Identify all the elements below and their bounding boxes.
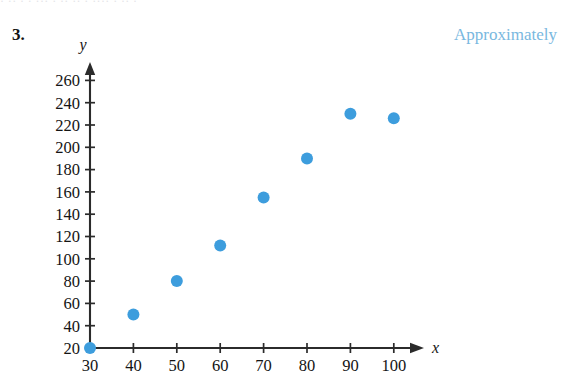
y-tick-label: 180 xyxy=(55,160,80,179)
y-tick-label: 100 xyxy=(55,250,80,269)
scatter-plot-svg: 20406080100120140160180200220240260 3040… xyxy=(0,0,588,381)
data-point: (30, 20) xyxy=(84,342,96,354)
x-tick-label: 60 xyxy=(212,356,229,375)
y-tick-label: 40 xyxy=(64,317,81,336)
y-tick-label: 140 xyxy=(55,205,80,224)
y-tick-label: 200 xyxy=(55,138,80,157)
y-tick-label: 260 xyxy=(55,71,80,90)
data-point: (100, 226) xyxy=(388,112,400,124)
y-axis-arrowhead xyxy=(85,62,95,75)
scatter-plot: 20406080100120140160180200220240260 3040… xyxy=(0,0,588,381)
x-axis-name-label: x xyxy=(431,339,439,356)
data-point: (90, 230) xyxy=(344,108,356,120)
y-axis-name-label: y xyxy=(77,36,87,54)
y-tick-label: 220 xyxy=(55,116,80,135)
data-point: (70, 155) xyxy=(258,191,270,203)
x-tick-label: 100 xyxy=(381,356,406,375)
data-point: (60, 112) xyxy=(214,239,226,251)
x-tick-label: 40 xyxy=(125,356,142,375)
data-point: (40, 50) xyxy=(127,309,139,321)
exercise-figure-page: · ·· · · ··· · ·· ·· · ···· · ·· · 3. Ap… xyxy=(0,0,588,381)
y-tick-label: 20 xyxy=(64,339,81,358)
y-tick-label: 160 xyxy=(55,183,80,202)
x-tick-label: 50 xyxy=(169,356,186,375)
x-axis-arrowhead xyxy=(410,343,424,353)
data-points: (30, 20)(40, 50)(50, 80)(60, 112)(70, 15… xyxy=(84,108,400,354)
data-point: (80, 190) xyxy=(301,152,313,164)
x-tick-label: 90 xyxy=(342,356,359,375)
x-tick-label: 70 xyxy=(255,356,272,375)
x-tick-label: 30 xyxy=(82,356,99,375)
y-tick-label: 120 xyxy=(55,227,80,246)
data-point: (50, 80) xyxy=(171,275,183,287)
y-tick-label: 80 xyxy=(64,272,81,291)
y-tick-label: 240 xyxy=(55,94,80,113)
x-tick-label: 80 xyxy=(299,356,316,375)
y-tick-label: 60 xyxy=(64,294,81,313)
